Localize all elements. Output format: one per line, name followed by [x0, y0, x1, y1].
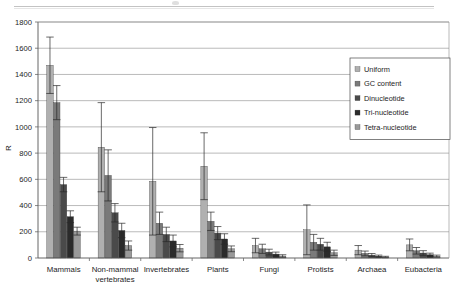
scan-artifact-speck — [172, 1, 179, 5]
x-axis-category-label: Fungi — [259, 265, 279, 274]
y-tick-label: 800 — [19, 149, 32, 158]
x-axis-category-label: Plants — [207, 265, 229, 274]
y-axis-tick-labels: 020040060080010001200140016001800 — [15, 18, 32, 263]
legend-swatch — [355, 67, 360, 72]
y-tick-label: 1800 — [15, 18, 32, 27]
scan-artifact-line-secondary — [14, 8, 434, 9]
y-tick-label: 400 — [19, 201, 32, 210]
legend-label: Dinucleotide — [364, 94, 405, 103]
y-tick-label: 1200 — [15, 96, 32, 105]
chart-legend: UniformGC contentDinucleotideTri-nucleot… — [350, 58, 450, 140]
gridlines — [35, 22, 449, 258]
legend-swatch — [355, 125, 360, 130]
y-tick-label: 0 — [28, 254, 32, 263]
y-tick-label: 200 — [19, 227, 32, 236]
x-axis-category-label: Invertebrates — [144, 265, 190, 274]
x-axis-category-label: Eubacteria — [405, 265, 443, 274]
y-tick-label: 600 — [19, 175, 32, 184]
legend-swatch — [355, 81, 360, 86]
category-labels: MammalsNon-mammalvertebratesInvertebrate… — [47, 265, 443, 284]
x-axis-category-label: Mammals — [47, 265, 81, 274]
legend-swatch — [355, 110, 360, 115]
y-tick-label: 1600 — [15, 44, 32, 53]
legend-label: Tetra-nucleotide — [364, 123, 417, 132]
chart-figure: 020040060080010001200140016001800 Mammal… — [0, 0, 461, 303]
x-axis-category-label: Archaea — [357, 265, 387, 274]
bar — [47, 65, 53, 258]
x-axis-category-label: vertebrates — [96, 275, 135, 284]
scan-artifact-line — [14, 6, 434, 7]
y-tick-label: 1400 — [15, 70, 32, 79]
y-axis-title: R — [4, 145, 13, 151]
legend-swatch — [355, 96, 360, 101]
legend-label: Uniform — [364, 65, 390, 74]
bar — [60, 185, 66, 258]
x-axis-category-label: Protists — [308, 265, 334, 274]
grouped-bar-chart: 020040060080010001200140016001800 Mammal… — [0, 0, 461, 303]
y-tick-label: 1000 — [15, 123, 32, 132]
bar — [54, 103, 60, 258]
legend-label: Tri-nucleotide — [364, 108, 409, 117]
legend-label: GC content — [364, 79, 401, 88]
x-axis-category-label: Non-mammal — [92, 265, 139, 274]
